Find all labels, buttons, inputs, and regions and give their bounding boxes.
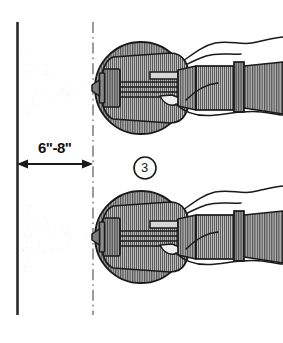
nozzle-collar-lower — [103, 218, 120, 256]
assembly-upper — [20, 37, 283, 134]
barrel-lower — [178, 215, 196, 259]
hose-collar-upper — [234, 62, 244, 112]
dimension-arrow — [17, 160, 93, 169]
step-number-label: 3 — [141, 161, 148, 174]
assembly-lower — [20, 186, 283, 283]
distance-dimension-label: 6"-8" — [38, 140, 71, 155]
spray-cone-lower — [20, 196, 92, 278]
spray-cone-upper — [20, 47, 92, 129]
trigger-plate-lower — [150, 221, 178, 228]
nozzle-collar-upper — [103, 69, 120, 107]
spray-technique-figure: 6"-8" 3 — [0, 0, 283, 343]
hose-segment-2-upper — [244, 62, 283, 114]
hose-collar-lower — [234, 211, 244, 261]
hose-segment-2-lower — [244, 211, 283, 263]
trigger-plate-upper — [150, 72, 178, 79]
barrel-upper — [178, 66, 196, 110]
